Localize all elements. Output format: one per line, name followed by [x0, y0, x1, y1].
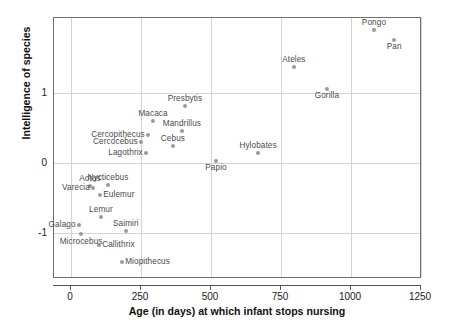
gridline-vertical: [421, 18, 422, 277]
data-point-label: Callithrix: [102, 241, 134, 249]
x-axis-title: Age (in days) at which infant stops nurs…: [53, 305, 421, 317]
x-axis-tick-label: 1250: [409, 291, 431, 302]
gridline-horizontal: [54, 163, 420, 164]
gridline-vertical: [351, 18, 352, 277]
data-point: [139, 140, 143, 144]
gridline-horizontal: [54, 93, 420, 94]
x-axis-tick-label: 0: [67, 291, 73, 302]
x-axis-tick: [280, 286, 281, 290]
x-axis-tick: [350, 286, 351, 290]
data-point-label: Mandrillus: [163, 119, 201, 127]
data-point: [98, 193, 102, 197]
data-point-label: Presbytis: [168, 95, 203, 103]
data-point: [256, 151, 260, 155]
y-axis-tick-label: 0: [41, 157, 47, 168]
x-axis-tick: [210, 286, 211, 290]
gridline-vertical: [211, 18, 212, 277]
data-point-label: Miopithecus: [125, 258, 170, 266]
y-axis-tick-label: 1: [41, 87, 47, 98]
data-point: [183, 104, 187, 108]
data-point-label: Saimiri: [113, 219, 139, 227]
x-axis-line: [53, 285, 421, 286]
data-point: [106, 183, 110, 187]
x-axis-tick-label: 1000: [339, 291, 361, 302]
data-point: [124, 229, 128, 233]
data-point-label: Aotus: [79, 175, 100, 183]
data-point: [180, 129, 184, 133]
data-point-label: Pan: [387, 43, 402, 51]
x-axis-tick: [140, 286, 141, 290]
x-axis-tick: [420, 286, 421, 290]
gridline-horizontal: [54, 233, 420, 234]
data-point-label: Lagothrix: [108, 149, 143, 157]
x-axis-tick: [70, 286, 71, 290]
data-point-label: Gorilla: [315, 92, 339, 100]
data-point-label: Varecia: [62, 184, 90, 192]
data-point: [91, 186, 95, 190]
data-point: [171, 144, 175, 148]
data-point-label: Lemur: [89, 205, 113, 213]
data-point-label: Eulemur: [103, 191, 134, 199]
data-point: [151, 119, 155, 123]
data-point: [372, 28, 376, 32]
scatter-plot-figure: PongoPanAtelesGorillaPresbytisMacacaMand…: [0, 0, 449, 322]
data-point: [120, 260, 124, 264]
data-point-label: Pongo: [362, 19, 386, 27]
data-point-label: Papio: [205, 164, 226, 172]
data-point: [97, 243, 101, 247]
data-point: [146, 133, 150, 137]
data-point-label: Ateles: [282, 56, 305, 64]
y-axis-title: Intelligence of species: [20, 3, 32, 163]
data-point: [99, 215, 103, 219]
plot-area: PongoPanAtelesGorillaPresbytisMacacaMand…: [53, 17, 421, 278]
data-point-label: Cercocebus: [93, 138, 138, 146]
data-point-label: Galago: [49, 220, 76, 228]
y-axis-tick-label: -1: [38, 227, 47, 238]
data-point: [144, 151, 148, 155]
x-axis-tick-label: 250: [132, 291, 149, 302]
data-point-label: Cebus: [161, 135, 185, 143]
data-point-label: Macaca: [138, 110, 167, 118]
data-point-label: Hylobates: [239, 142, 276, 150]
data-point: [77, 223, 81, 227]
x-axis-tick-label: 750: [272, 291, 289, 302]
data-point: [292, 65, 296, 69]
x-axis-tick-label: 500: [202, 291, 219, 302]
